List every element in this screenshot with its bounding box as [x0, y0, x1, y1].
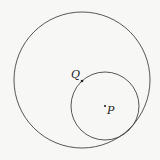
circle-diagram: Q P: [0, 0, 160, 160]
point-p-dot: [104, 105, 106, 107]
point-q-label: Q: [71, 68, 80, 81]
point-q-dot: [81, 80, 84, 83]
point-p-label: P: [106, 104, 115, 117]
